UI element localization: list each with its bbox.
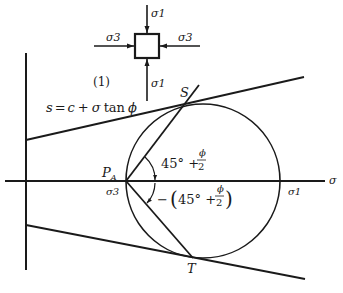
svg-text:45° +: 45° + (161, 156, 199, 171)
sigma1-axis-label: σ1 (288, 186, 301, 197)
svg-text:2: 2 (198, 161, 204, 172)
element-number: (1) (93, 75, 110, 89)
failure-envelope-lower (26, 225, 305, 279)
svg-text:2: 2 (216, 197, 222, 208)
sigma-axis-label: σ (329, 174, 337, 187)
envelope-equation: s=c+σtanϕ (46, 100, 137, 115)
angle-arc-lower (147, 183, 155, 203)
element-square (135, 34, 159, 58)
point-T-label: T (187, 261, 197, 276)
angle-arc-upper (145, 157, 155, 180)
svg-text:−: − (157, 192, 168, 207)
sigma3-axis-label: σ3 (106, 186, 119, 197)
angle-label-upper: 45° + ϕ 2 (161, 147, 206, 172)
label-sigma1-bottom: σ1 (151, 77, 166, 90)
pole-label: PA (101, 165, 117, 182)
label-sigma3-left: σ3 (106, 31, 121, 44)
svg-text:45° +: 45° + (178, 192, 216, 207)
point-S-label: S (180, 85, 189, 100)
svg-text:): ) (225, 187, 233, 211)
svg-text:ϕ: ϕ (217, 183, 224, 194)
svg-text:ϕ: ϕ (199, 147, 206, 158)
angle-label-lower: − ( 45° + ϕ 2 ) (157, 183, 233, 211)
mohr-circle-diagram: σ1 σ1 σ3 σ3 (1) σ s=c+σtanϕ S T PA σ3 σ1… (0, 0, 343, 293)
label-sigma1-top: σ1 (151, 7, 166, 20)
label-sigma3-right: σ3 (178, 31, 193, 44)
svg-text:(: ( (170, 187, 178, 211)
